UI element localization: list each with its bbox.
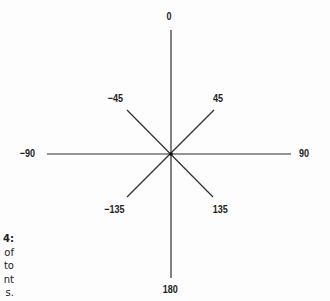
center-point: [169, 152, 173, 156]
label-180: 180: [163, 283, 178, 295]
label-neg90: −90: [20, 147, 35, 159]
label-neg45: −45: [108, 92, 123, 104]
caption-line: 4:: [3, 233, 14, 244]
caption-line: to: [0, 259, 14, 273]
caption-line: s.: [0, 286, 14, 300]
angle-diagram: [0, 0, 330, 301]
label-0: 0: [167, 10, 172, 22]
caption-line: nt: [0, 273, 14, 287]
label-90: 90: [299, 147, 309, 159]
label-135: 135: [213, 203, 228, 215]
caption-fragment: 4: of to nt s.: [0, 232, 14, 300]
caption-line: of: [0, 246, 14, 260]
label-neg135: −135: [104, 203, 124, 215]
label-45: 45: [213, 92, 223, 104]
